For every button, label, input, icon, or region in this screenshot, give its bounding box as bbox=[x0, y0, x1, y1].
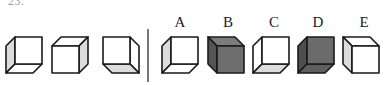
stem-cube-1 bbox=[6, 37, 42, 73]
stem-cubes bbox=[6, 37, 139, 73]
cube-front-face bbox=[52, 46, 79, 73]
option-label-a: A bbox=[175, 14, 186, 30]
cube-front-face bbox=[352, 46, 379, 73]
cube-front-face bbox=[15, 37, 42, 64]
cube-front-face bbox=[307, 37, 334, 64]
cube-figure: ABCDE bbox=[0, 0, 388, 86]
cube-front-face bbox=[217, 46, 244, 73]
stem-cube-3 bbox=[103, 37, 139, 73]
option-label-e: E bbox=[359, 14, 368, 30]
cube-front-face bbox=[171, 37, 198, 64]
option-cube-c bbox=[253, 37, 289, 73]
cube-front-face bbox=[262, 37, 289, 64]
option-cube-a bbox=[162, 37, 198, 73]
option-cube-d bbox=[298, 37, 334, 73]
option-label-d: D bbox=[313, 14, 324, 30]
option-cube-b bbox=[208, 37, 244, 73]
option-label-c: C bbox=[269, 14, 279, 30]
option-cubes: ABCDE bbox=[162, 14, 379, 73]
option-label-b: B bbox=[223, 14, 233, 30]
stem-cube-2 bbox=[52, 37, 88, 73]
option-cube-e bbox=[343, 37, 379, 73]
cube-front-face bbox=[103, 37, 130, 64]
